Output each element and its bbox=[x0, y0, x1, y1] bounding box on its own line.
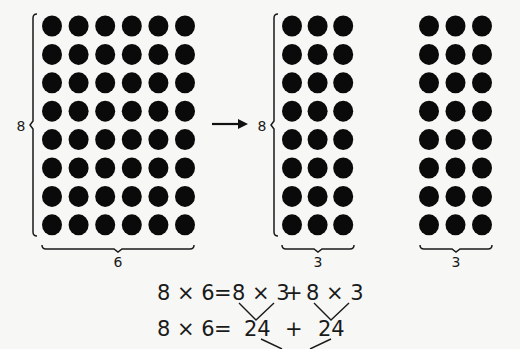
equation-1-lhs: 8 × 6 bbox=[157, 282, 215, 304]
dot bbox=[42, 129, 62, 150]
dot bbox=[446, 129, 466, 150]
dot bbox=[419, 44, 439, 65]
right-arrow-icon bbox=[212, 119, 248, 129]
dot bbox=[95, 129, 115, 150]
dot-array-8x3-left bbox=[282, 16, 353, 236]
dot bbox=[148, 129, 168, 150]
row-brace-full bbox=[30, 14, 37, 236]
dot bbox=[446, 158, 466, 179]
dot bbox=[175, 186, 195, 207]
dot bbox=[308, 158, 328, 179]
dot bbox=[419, 186, 439, 207]
dot bbox=[122, 72, 142, 93]
dot bbox=[308, 186, 328, 207]
dot bbox=[122, 16, 142, 37]
dot bbox=[282, 101, 302, 122]
equation-2-term2: 24 bbox=[318, 318, 345, 340]
dot bbox=[95, 158, 115, 179]
dot bbox=[175, 16, 195, 37]
dot bbox=[333, 16, 353, 37]
dot bbox=[42, 16, 62, 37]
dot bbox=[282, 72, 302, 93]
dot bbox=[333, 101, 353, 122]
col-brace-left-part bbox=[282, 245, 354, 252]
dot bbox=[175, 72, 195, 93]
dot bbox=[95, 101, 115, 122]
dot bbox=[333, 72, 353, 93]
dot bbox=[95, 72, 115, 93]
equation-1-term1: 8 × 3 bbox=[232, 282, 290, 304]
equation-1-term2: 8 × 3 bbox=[306, 282, 364, 304]
dot bbox=[472, 72, 492, 93]
col-count-label-left-part: 3 bbox=[314, 255, 323, 269]
dot bbox=[308, 72, 328, 93]
dot bbox=[122, 214, 142, 235]
dot bbox=[419, 214, 439, 235]
dot bbox=[148, 186, 168, 207]
dot bbox=[282, 214, 302, 235]
dot bbox=[122, 101, 142, 122]
dot bbox=[148, 44, 168, 65]
dot bbox=[282, 44, 302, 65]
distributive-property-figure: 8 6 8 3 3 8 × 6 = 8 × 3 + 8 × 3 8 × 6 = … bbox=[0, 0, 520, 349]
dot bbox=[95, 186, 115, 207]
row-brace-left-part bbox=[271, 14, 278, 236]
dot bbox=[122, 186, 142, 207]
col-brace-full bbox=[42, 245, 194, 252]
dot bbox=[122, 158, 142, 179]
dot bbox=[472, 186, 492, 207]
dot bbox=[175, 129, 195, 150]
dot bbox=[42, 158, 62, 179]
dot bbox=[308, 214, 328, 235]
dot bbox=[282, 158, 302, 179]
dot bbox=[472, 129, 492, 150]
dot bbox=[446, 16, 466, 37]
equation-1-plus: + bbox=[285, 282, 303, 304]
dot bbox=[333, 158, 353, 179]
dot bbox=[69, 214, 89, 235]
dot bbox=[42, 72, 62, 93]
dot bbox=[419, 16, 439, 37]
dot bbox=[333, 214, 353, 235]
dot bbox=[95, 214, 115, 235]
dot bbox=[42, 214, 62, 235]
dot bbox=[95, 16, 115, 37]
dot bbox=[308, 129, 328, 150]
dot bbox=[42, 101, 62, 122]
dot bbox=[282, 186, 302, 207]
dot bbox=[175, 158, 195, 179]
dot bbox=[446, 214, 466, 235]
dot bbox=[472, 16, 492, 37]
dot bbox=[472, 44, 492, 65]
equation-2-lhs: 8 × 6 bbox=[157, 318, 215, 340]
dot bbox=[175, 44, 195, 65]
row-count-label-full: 8 bbox=[17, 119, 26, 133]
dot bbox=[446, 44, 466, 65]
dot bbox=[148, 16, 168, 37]
dot bbox=[446, 72, 466, 93]
col-brace-right-part bbox=[420, 245, 492, 252]
dot bbox=[333, 129, 353, 150]
dot bbox=[446, 101, 466, 122]
dot bbox=[472, 158, 492, 179]
dot bbox=[419, 129, 439, 150]
dot bbox=[122, 129, 142, 150]
dot bbox=[333, 44, 353, 65]
dot bbox=[69, 158, 89, 179]
dot-array-8x3-right bbox=[419, 16, 492, 236]
equation-2-term1: 24 bbox=[244, 318, 271, 340]
col-count-label-right-part: 3 bbox=[452, 255, 461, 269]
dot bbox=[148, 72, 168, 93]
dot bbox=[308, 16, 328, 37]
dot bbox=[282, 16, 302, 37]
dot bbox=[42, 44, 62, 65]
row-count-label-left-part: 8 bbox=[258, 119, 267, 133]
dot bbox=[282, 129, 302, 150]
col-count-label-full: 6 bbox=[114, 255, 123, 269]
dot bbox=[419, 72, 439, 93]
dot bbox=[69, 44, 89, 65]
dot bbox=[175, 214, 195, 235]
dot bbox=[95, 44, 115, 65]
equation-1-equals: = bbox=[214, 282, 232, 304]
dot bbox=[69, 101, 89, 122]
